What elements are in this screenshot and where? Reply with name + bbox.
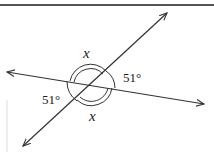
angle-arc-51-right [106,71,115,88]
transversal-line-horizontal [7,72,204,104]
angle-diagram: x x 51° 51° [0,0,214,152]
diagram-canvas: x x 51° 51° [0,0,214,152]
label-x-top: x [82,45,90,61]
transversal-line-diagonal [23,13,167,146]
label-51-right: 51° [123,70,141,85]
label-x-bottom: x [88,108,96,124]
label-51-left: 51° [42,92,60,107]
angle-arc-x-top [70,64,106,82]
